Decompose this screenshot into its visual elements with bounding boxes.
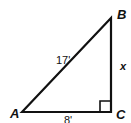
vertex-a-label: A [9, 106, 19, 121]
side-ac-length-label: 8' [64, 114, 72, 123]
right-triangle-diagram: A B C 17' x 8' [0, 0, 131, 123]
right-angle-marker [100, 101, 111, 112]
vertex-b-label: B [117, 7, 126, 22]
vertex-c-label: C [116, 107, 126, 122]
hypotenuse-length-label: 17' [56, 54, 70, 66]
side-bc-variable-label: x [119, 60, 127, 72]
